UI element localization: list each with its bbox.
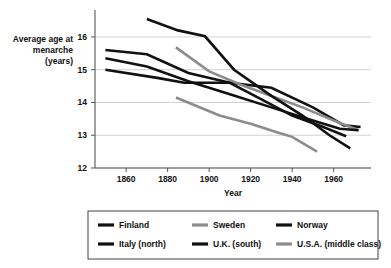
x-tick-label-1880: 1880 [158, 174, 177, 184]
x-tick-label-1960: 1960 [324, 174, 343, 184]
legend-item-sweden[interactable]: Sweden [192, 220, 245, 230]
y-tick-label-15: 15 [78, 65, 88, 75]
series-line-italy-north [147, 19, 350, 148]
y-tick-label-group: 1213141516 [78, 32, 88, 173]
x-tick-label-1860: 1860 [117, 174, 136, 184]
y-axis-title: Average age atmenarche(years) [13, 34, 73, 66]
y-tick-mark-group [91, 37, 95, 168]
legend-label-finland: Finland [119, 220, 149, 230]
legend-label-u-s-a-middle-class: U.S.A. (middle class) [297, 239, 381, 249]
y-tick-label-14: 14 [78, 97, 88, 107]
x-tick-label-1940: 1940 [283, 174, 302, 184]
x-tick-label-1920: 1920 [241, 174, 260, 184]
legend-label-sweden: Sweden [213, 220, 245, 230]
legend-item-u-s-a-middle-class[interactable]: U.S.A. (middle class) [276, 239, 381, 249]
y-axis-title-line-0: Average age at [13, 34, 73, 44]
x-axis-title: Year [224, 188, 243, 198]
y-tick-label-16: 16 [78, 32, 88, 42]
legend-item-italy-north[interactable]: Italy (north) [98, 239, 166, 249]
y-tick-label-13: 13 [78, 130, 88, 140]
y-axis-title-line-2: (years) [45, 56, 73, 66]
gridline-group [95, 37, 371, 168]
legend-label-norway: Norway [297, 220, 328, 230]
x-axis-title-text: Year [224, 188, 243, 198]
y-axis-title-line-1: menarche [33, 45, 73, 55]
legend-border [88, 211, 378, 259]
legend-item-finland[interactable]: Finland [98, 220, 149, 230]
x-tick-label-group: 186018801900192019401960 [117, 174, 344, 184]
legend-item-norway[interactable]: Norway [276, 220, 328, 230]
chart-canvas: 1213141516 186018801900192019401960 Aver… [0, 0, 391, 268]
x-tick-mark-group [126, 168, 334, 172]
menarche-age-line-chart: 1213141516 186018801900192019401960 Aver… [0, 0, 391, 268]
y-tick-label-12: 12 [78, 163, 88, 173]
axis-group [95, 10, 371, 168]
chart-legend: FinlandSwedenNorwayItaly (north)U.K. (so… [88, 211, 381, 259]
legend-label-u-k-south: U.K. (south) [213, 239, 261, 249]
legend-label-italy-north: Italy (north) [119, 239, 166, 249]
series-group [105, 19, 360, 152]
legend-item-u-k-south[interactable]: U.K. (south) [192, 239, 261, 249]
x-tick-label-1900: 1900 [200, 174, 219, 184]
